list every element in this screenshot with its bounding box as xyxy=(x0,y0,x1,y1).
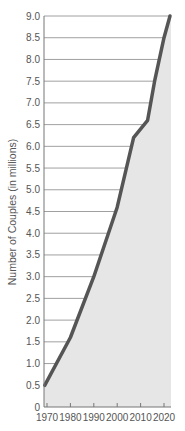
x-tick-label: 1990 xyxy=(83,412,106,423)
y-tick-label: 8.5 xyxy=(26,32,40,43)
x-tick-label: 2020 xyxy=(153,412,176,423)
y-tick-label: 9.0 xyxy=(26,11,40,22)
y-tick-label: 7.0 xyxy=(26,97,40,108)
line-area-chart: 00.51.01.52.02.53.03.54.04.55.05.56.06.5… xyxy=(0,0,185,431)
y-tick-label: 6.5 xyxy=(26,119,40,130)
x-tick-label: 1970 xyxy=(36,412,59,423)
y-tick-label: 3.5 xyxy=(26,249,40,260)
y-tick-label: 1.5 xyxy=(26,336,40,347)
x-tick-label: 2000 xyxy=(106,412,129,423)
y-tick-labels: 00.51.01.52.02.53.03.54.04.55.05.56.06.5… xyxy=(26,11,40,413)
x-tick-label: 2010 xyxy=(129,412,152,423)
y-tick-label: 3.0 xyxy=(26,271,40,282)
y-tick-label: 2.5 xyxy=(26,293,40,304)
y-tick-label: 8.0 xyxy=(26,54,40,65)
y-tick-label: 0 xyxy=(34,402,40,413)
y-tick-label: 4.5 xyxy=(26,206,40,217)
y-tick-label: 0.5 xyxy=(26,380,40,391)
y-tick-label: 7.5 xyxy=(26,76,40,87)
y-tick-label: 4.0 xyxy=(26,228,40,239)
y-tick-label: 1.0 xyxy=(26,358,40,369)
y-tick-label: 6.0 xyxy=(26,141,40,152)
y-tick-label: 2.0 xyxy=(26,315,40,326)
y-axis-title: Number of Couples (in millions) xyxy=(6,139,18,285)
y-tick-label: 5.0 xyxy=(26,184,40,195)
x-tick-label: 1980 xyxy=(59,412,82,423)
y-tick-label: 5.5 xyxy=(26,163,40,174)
